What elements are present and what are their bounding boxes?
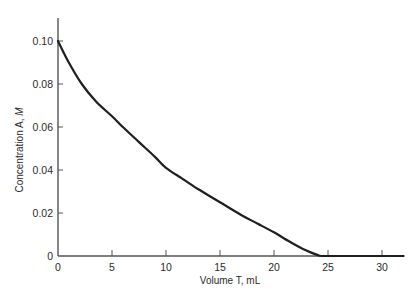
y-tick-label: 0.02 <box>33 207 54 219</box>
x-tick-label: 25 <box>322 261 334 273</box>
x-tick-label: 20 <box>268 261 280 273</box>
x-tick-label: 5 <box>109 261 115 273</box>
x-ticks: 051015202530 <box>55 250 388 273</box>
y-axis-label-unit: M <box>14 107 25 116</box>
x-axis-label: Volume T, mL <box>200 275 261 286</box>
y-tick-label: 0.08 <box>33 78 54 90</box>
y-tick-label: 0.10 <box>33 35 54 47</box>
x-tick-label: 0 <box>55 261 61 273</box>
x-tick-label: 30 <box>376 261 388 273</box>
x-tick-label: 15 <box>214 261 226 273</box>
y-tick-label: 0 <box>47 250 53 262</box>
x-tick-label: 10 <box>160 261 172 273</box>
y-axis-label-main: Concentration A, <box>14 116 25 193</box>
concentration-curve <box>58 41 404 256</box>
y-axis-label: Concentration A, M <box>14 107 25 193</box>
y-tick-label: 0.04 <box>33 164 54 176</box>
titration-chart: 051015202530 00.020.040.060.080.10 Volum… <box>0 0 418 300</box>
y-tick-label: 0.06 <box>33 121 54 133</box>
axes <box>58 18 403 256</box>
